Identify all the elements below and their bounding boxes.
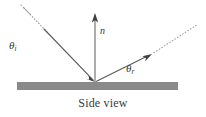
theta-subscript-reflected: r [132,67,135,76]
reflected-ray-line [97,57,147,82]
reflection-diagram: θi θr n Side view [0,0,206,117]
incident-angle-label: θi [9,40,17,53]
figure-caption: Side view [0,96,206,111]
reflected-ray-extension-line [154,26,196,53]
reflective-surface [17,82,178,90]
theta-subscript-incident: i [15,44,17,53]
theta-symbol-reflected: θ [126,62,131,74]
reflected-angle-label: θr [126,63,134,76]
theta-symbol-incident: θ [9,39,14,51]
incident-ray-line [44,29,93,80]
normal-vector-label: n [100,26,105,36]
